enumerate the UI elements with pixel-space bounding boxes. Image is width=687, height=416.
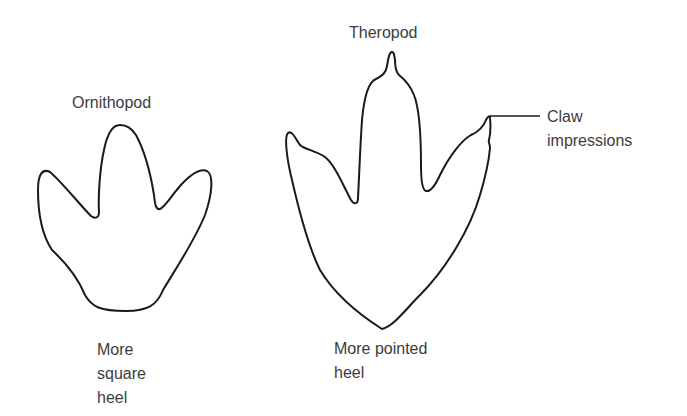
claw-impressions-label: Claw impressions [547,105,632,153]
theropod-footprint [286,52,490,329]
theropod-heel-caption: More pointed heel [334,337,427,385]
ornithopod-label: Ornithopod [72,91,151,115]
theropod-label: Theropod [349,21,418,45]
ornithopod-footprint [38,125,211,311]
ornithopod-heel-caption: More square heel [97,338,146,410]
